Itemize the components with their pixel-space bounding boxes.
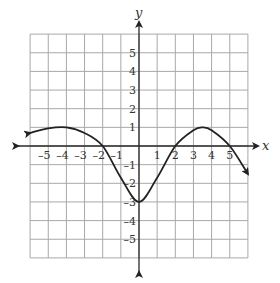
x-tick-label: 5 (226, 149, 233, 162)
function-graph: x y –5–4–3–2–11234554321–1–2–3–4–5 (0, 0, 280, 283)
y-tick-label: 4 (129, 65, 136, 78)
x-tick-label: 4 (208, 149, 215, 162)
x-tick-label: –3 (74, 149, 87, 162)
y-tick-label: 3 (129, 84, 136, 97)
x-tick-label: –5 (38, 149, 51, 162)
y-tick-label: 2 (129, 103, 136, 116)
x-axis-label: x (262, 138, 270, 153)
y-tick-label: –4 (124, 215, 137, 228)
x-tick-label: –4 (56, 149, 69, 162)
y-axis-label: y (134, 5, 143, 20)
y-tick-label: 1 (129, 121, 136, 134)
x-tick-label: 3 (190, 149, 197, 162)
y-tick-label: 5 (129, 47, 136, 60)
x-tick-label: –2 (92, 149, 105, 162)
y-tick-label: –5 (124, 233, 137, 246)
axes: x y (18, 5, 270, 272)
x-tick-label: 1 (154, 149, 161, 162)
y-tick-label: –1 (124, 159, 137, 172)
x-tick-label: –1 (111, 149, 124, 162)
